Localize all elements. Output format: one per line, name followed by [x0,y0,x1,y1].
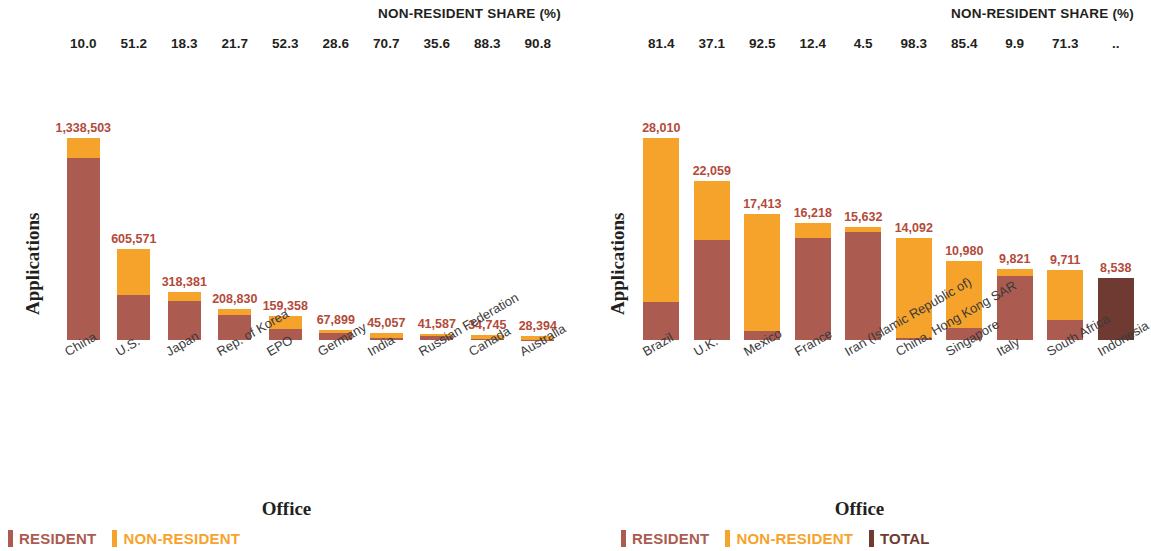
x-axis-label-right: Office [573,498,1146,520]
bar-value-label: 318,381 [162,275,207,289]
share-value: .. [1091,36,1142,51]
share-value: 85.4 [939,36,990,51]
share-value: 98.3 [889,36,940,51]
bar-value-label: 9,711 [1050,253,1081,267]
bar-group: 22,059 [687,138,738,340]
bar-value-label: 15,632 [844,210,882,224]
legend-item[interactable]: NON-RESIDENT [112,530,240,547]
bar-group: 605,571 [109,138,160,340]
bar-group: 16,218 [788,138,839,340]
bar-group: 45,057 [361,138,412,340]
bar-group: 15,632 [838,138,889,340]
bar-value-label: 28,010 [642,121,680,135]
bar-segment-non-resident [744,214,780,330]
share-value: 70.7 [361,36,412,51]
bar-segment-non-resident [168,292,201,301]
bar-group: 208,830 [210,138,261,340]
bar-segment-non-resident [1047,270,1083,320]
non-resident-share-values-right: 81.437.192.512.44.598.385.49.971.3.. [636,36,1141,51]
bar-group: 17,413 [737,138,788,340]
bar[interactable]: 28,010 [643,138,679,340]
y-axis-label-right: Applications [607,213,629,315]
bar-segment-non-resident [643,138,679,302]
non-resident-share-values-left: 10.051.218.321.752.328.670.735.688.390.8 [58,36,563,51]
bar[interactable]: 16,218 [795,223,831,340]
share-value: 92.5 [737,36,788,51]
bar-value-label: 1,338,503 [55,121,111,135]
bar-value-label: 16,218 [794,206,832,220]
bar[interactable]: 9,821 [997,269,1033,340]
bar-segment-resident [694,240,730,340]
share-value: 10.0 [58,36,109,51]
bar-value-label: 605,571 [111,232,156,246]
legend-item[interactable]: RESIDENT [8,530,96,547]
share-value: 35.6 [412,36,463,51]
legend-item[interactable]: RESIDENT [621,530,709,547]
bar-value-label: 22,059 [693,164,731,178]
legend-label: NON-RESIDENT [123,530,240,547]
bar-value-label: 10,980 [945,244,983,258]
bar-group: 318,381 [159,138,210,340]
share-value: 4.5 [838,36,889,51]
bar-segment-non-resident [997,269,1033,276]
bar-group: 67,899 [311,138,362,340]
legend-label: TOTAL [880,530,930,547]
share-value: 71.3 [1040,36,1091,51]
bar[interactable]: 15,632 [845,227,881,340]
share-value: 12.4 [788,36,839,51]
share-value: 37.1 [687,36,738,51]
share-value: 18.3 [159,36,210,51]
bar[interactable]: 22,059 [694,181,730,340]
bar-group: 8,538 [1091,138,1142,340]
y-axis-label-left: Applications [22,213,44,315]
bar-value-label: 9,821 [999,252,1030,266]
legend-label: RESIDENT [632,530,709,547]
bar-group: 9,711 [1040,138,1091,340]
legend-label: RESIDENT [19,530,96,547]
bar-segment-non-resident [694,181,730,240]
bar-segment-non-resident [67,138,100,158]
bar-segment-resident [67,158,100,340]
share-value: 9.9 [990,36,1041,51]
bar-group: 28,394 [513,138,564,340]
bar-segment-non-resident [218,309,251,316]
bar-segment-resident [795,238,831,340]
legend-label: NON-RESIDENT [736,530,853,547]
legend-left: RESIDENTNON-RESIDENT [8,530,240,547]
bar-segment-non-resident [795,223,831,238]
non-resident-share-title-left: NON-RESIDENT SHARE (%) [378,6,561,21]
non-resident-share-title-right: NON-RESIDENT SHARE (%) [951,6,1134,21]
bar-value-label: 14,092 [895,221,933,235]
share-value: 21.7 [210,36,261,51]
share-value: 88.3 [462,36,513,51]
bar-value-label: 17,413 [743,197,781,211]
bar[interactable]: 1,338,503 [67,138,100,340]
bar[interactable]: 17,413 [744,214,780,340]
bar-segment-non-resident [117,249,150,296]
legend-swatch-icon [725,530,730,547]
legend-right: RESIDENTNON-RESIDENTTOTAL [621,530,930,547]
legend-swatch-icon [869,530,874,547]
legend-swatch-icon [621,530,626,547]
bar-value-label: 208,830 [212,292,257,306]
plot-area-right: 28,01022,05917,41316,21815,63214,09210,9… [636,138,1141,340]
share-value: 81.4 [636,36,687,51]
legend-item[interactable]: TOTAL [869,530,930,547]
bar-group: 41,587 [412,138,463,340]
chart-panel-right: NON-RESIDENT SHARE (%) 81.437.192.512.44… [573,0,1146,551]
legend-swatch-icon [112,530,117,547]
bar-value-label: 8,538 [1100,261,1131,275]
bar-segment-resident [845,232,881,340]
bar-group: 9,821 [990,138,1041,340]
bar-value-label: 67,899 [317,313,355,327]
legend-swatch-icon [8,530,13,547]
bar[interactable]: 605,571 [117,249,150,340]
share-value: 90.8 [513,36,564,51]
bar-group: 1,338,503 [58,138,109,340]
share-value: 52.3 [260,36,311,51]
bar-value-label: 45,057 [367,316,405,330]
bar-group: 28,010 [636,138,687,340]
share-value: 28.6 [311,36,362,51]
legend-item[interactable]: NON-RESIDENT [725,530,853,547]
